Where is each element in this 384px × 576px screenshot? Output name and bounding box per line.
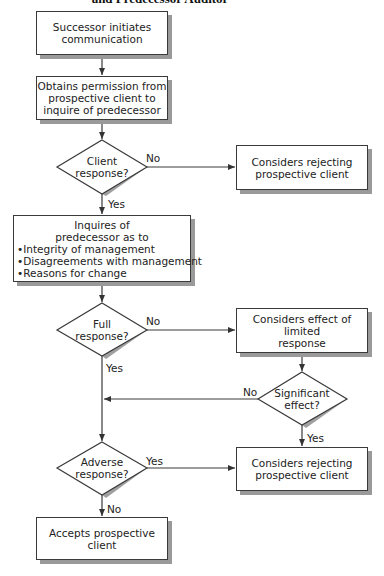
node-accepts-prospective-client: Accepts prospective client [36, 517, 168, 560]
node-text: Considers effect of [253, 313, 352, 325]
node-considers-rejecting-2: Considers rejecting prospective client [236, 447, 368, 491]
node-text: limited [284, 325, 320, 337]
node-text: prospective client [255, 469, 348, 481]
edge-label-significant-yes: Yes [307, 432, 324, 444]
node-text: Client [67, 155, 137, 167]
node-text: Inquires of [14, 219, 190, 231]
node-significant-effect-label: Significant effect? [267, 387, 337, 411]
bullet-item: •Integrity of management [14, 243, 190, 255]
edge-label-client-no: No [146, 152, 160, 164]
node-obtains-permission: Obtains permission from prospective clie… [36, 76, 168, 120]
node-text: client [88, 539, 117, 551]
node-text: response? [67, 167, 137, 179]
node-text: response [278, 337, 326, 349]
node-inquires-of-predecessor: Inquires of predecessor as to •Integrity… [13, 215, 191, 282]
node-text: Considers rejecting [251, 156, 352, 168]
node-text: response? [67, 330, 137, 342]
node-considers-rejecting-1: Considers rejecting prospective client [236, 145, 368, 190]
node-text: communication [61, 33, 142, 45]
edge-label-adverse-no: No [107, 503, 121, 515]
edge-label-significant-no: No [243, 386, 257, 398]
edge-label-adverse-yes: Yes [146, 455, 163, 467]
node-text: effect? [267, 399, 337, 411]
node-text: Considers rejecting [251, 457, 352, 469]
node-successor-initiates: Successor initiates communication [36, 11, 168, 55]
edge-label-full-yes: Yes [106, 362, 123, 374]
node-client-response-label: Client response? [67, 155, 137, 179]
node-text: inquire of predecessor [43, 104, 160, 116]
bullet-item: •Reasons for change [14, 267, 190, 279]
node-considers-effect-limited: Considers effect of limited response [236, 308, 368, 353]
node-text: Significant [267, 387, 337, 399]
node-text: Full [67, 318, 137, 330]
node-text: prospective client [255, 168, 348, 180]
node-text: response? [67, 468, 137, 480]
node-text: Accepts prospective [49, 527, 155, 539]
edge-label-client-yes: Yes [108, 198, 125, 210]
node-full-response-label: Full response? [67, 318, 137, 342]
node-text: Successor initiates [53, 21, 151, 33]
node-text: predecessor as to [14, 231, 190, 243]
node-text: Adverse [67, 456, 137, 468]
node-text: Obtains permission from [38, 80, 167, 92]
node-adverse-response-label: Adverse response? [67, 456, 137, 480]
edge-label-full-no: No [146, 315, 160, 327]
bullet-item: •Disagreements with management [14, 255, 190, 267]
node-text: prospective client to [48, 92, 155, 104]
